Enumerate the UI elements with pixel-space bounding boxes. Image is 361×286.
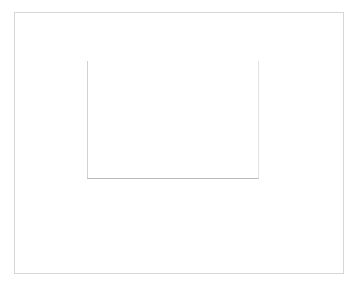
- series-canvas: [88, 61, 260, 179]
- x-axis-labels: [55, 181, 285, 267]
- plot-area: [87, 61, 259, 179]
- y-axis-ticks: [37, 61, 83, 179]
- chart-frame: [14, 12, 344, 274]
